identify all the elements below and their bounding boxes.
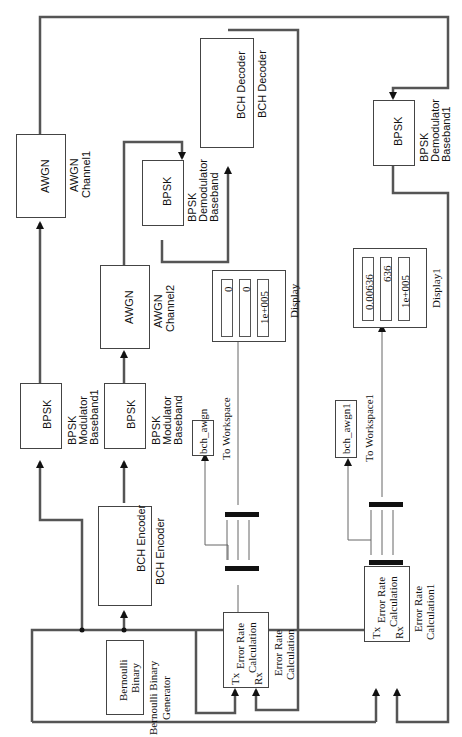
display-field-3: 1e+005 — [257, 279, 269, 337]
err-label: Error Rate — [272, 630, 284, 676]
display-label: Display — [288, 284, 300, 318]
mux-bar — [225, 512, 259, 517]
to-ws1-var: bch_awgn1 — [340, 403, 352, 454]
awgn2-icon-text: AWGN — [123, 290, 135, 324]
bpsk-mod1-label-3: Baseband1 — [88, 389, 100, 445]
err-icon-text-2: Calculation — [246, 622, 258, 673]
awgn-channel1-block[interactable]: AWGN — [16, 134, 66, 218]
bernoulli-binary-generator-block[interactable]: Bernoulli Binary — [106, 640, 144, 715]
bpsk-mod1-icon-text: BPSK — [41, 400, 53, 429]
bch-decoder-label: BCH Decoder — [256, 50, 268, 118]
bpsk-demod1-label-3: Baseband1 — [440, 106, 452, 162]
err1-icon-text: Error Rate — [375, 577, 387, 623]
awgn2-label-2: Channel2 — [164, 285, 176, 332]
bernoulli-label: Bernoulli Binary — [147, 661, 159, 735]
display-field-1: 0 — [221, 279, 233, 337]
err-tx-port: Tx — [229, 673, 241, 685]
to-ws1-label: To Workspace1 — [363, 394, 375, 462]
bpsk-modulator-baseband-block[interactable]: BPSK — [104, 383, 146, 449]
awgn-channel2-block[interactable]: AWGN — [100, 265, 150, 349]
err-rx-port: Rx — [252, 672, 264, 685]
display1-label: Display1 — [430, 268, 442, 308]
err1-label-2: Calculation1 — [424, 584, 436, 640]
to-workspace1-block[interactable]: bch_awgn1 — [335, 400, 357, 458]
error-rate-calculation1-block[interactable]: Tx Rx Error Rate Calculation — [364, 566, 410, 642]
bpsk-demod-icon-text: BPSK — [161, 177, 173, 206]
bch-decoder-block[interactable]: BCH Decoder — [200, 38, 254, 148]
awgn1-label-2: Channel1 — [80, 151, 92, 198]
awgn1-label: AWGN — [68, 158, 80, 192]
display-block: 0 0 1e+005 — [212, 270, 286, 342]
display1-field-1: 0.00636 — [362, 257, 374, 321]
bpsk-demodulator-baseband1-block[interactable]: BPSK — [373, 100, 415, 166]
bpsk-mod-label-3: Baseband — [172, 395, 184, 445]
err-icon-text: Error Rate — [234, 623, 246, 669]
bernoulli-icon-text: Bernoulli — [117, 659, 129, 701]
awgn1-icon-text: AWGN — [39, 159, 51, 193]
display1-field-3: 1e+005 — [398, 257, 410, 321]
to-workspace-block[interactable]: bch_awgn — [192, 420, 214, 456]
bch-decoder-icon-text: BCH Decoder — [235, 51, 247, 119]
err1-tx-port: Tx — [370, 627, 382, 639]
bpsk-demodulator-baseband-block[interactable]: BPSK — [142, 160, 184, 226]
bch-encoder-block[interactable]: BCH Encoder — [98, 506, 152, 606]
to-ws-var: bch_awgn — [197, 409, 209, 454]
bch-encoder-icon-text: BCH Encoder — [135, 505, 147, 572]
bpsk-demod-label-3: Baseband — [208, 172, 220, 222]
display-field-2: 0 — [239, 279, 251, 337]
bpsk-mod-icon-text: BPSK — [125, 400, 137, 429]
display1-block: 0.00636 636 1e+005 — [353, 248, 427, 328]
bernoulli-label-2: Generator — [160, 676, 172, 720]
mux-bar-1 — [369, 502, 403, 507]
demux-bar — [225, 566, 259, 571]
err1-icon-text-2: Calculation — [387, 576, 399, 627]
error-rate-calculation-block[interactable]: Tx Rx Error Rate Calculation — [223, 612, 269, 688]
demux-bar-1 — [369, 560, 403, 565]
bch-encoder-label: BCH Encoder — [154, 518, 166, 585]
bpsk-demod1-icon-text: BPSK — [392, 117, 404, 146]
err1-label: Error Rate — [412, 586, 424, 632]
err1-rx-port: Rx — [393, 626, 405, 639]
err-label-2: Calculation — [284, 629, 296, 680]
bernoulli-icon-text-2: Binary — [129, 663, 141, 693]
awgn2-label: AWGN — [152, 294, 164, 328]
bpsk-modulator-baseband1-block[interactable]: BPSK — [20, 383, 62, 449]
to-ws-label: To Workspace — [220, 397, 232, 460]
display1-field-2: 636 — [380, 257, 392, 321]
